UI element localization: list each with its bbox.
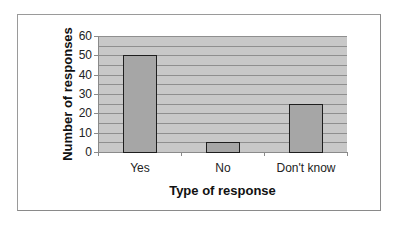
category-label: Don't know [265,161,347,175]
gridline [98,36,347,37]
bar-don-t-know [289,104,323,153]
x-tick-mark [264,152,265,156]
y-tick-mark [94,94,98,95]
y-axis-title: Number of responses [60,14,75,174]
category-label: Yes [99,161,181,175]
x-axis-title: Type of response [98,183,347,198]
y-tick-mark [94,133,98,134]
bar-no [206,142,240,153]
y-tick-mark [94,75,98,76]
y-tick-mark [94,113,98,114]
gridline [98,46,347,47]
x-tick-mark [181,152,182,156]
category-label: No [182,161,264,175]
y-tick-mark [94,36,98,37]
bar-yes [123,55,157,153]
y-axis-line [98,36,99,152]
x-tick-mark [98,152,99,156]
y-tick-mark [94,55,98,56]
x-tick-mark [347,152,348,156]
